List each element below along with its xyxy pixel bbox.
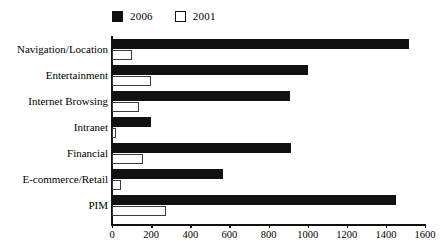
chart-legend: 2006 2001: [112, 8, 312, 24]
hollow-square-icon: [175, 11, 186, 22]
bar-2001: [112, 102, 139, 112]
category-axis-labels: Navigation/LocationEntertainmentInternet…: [0, 36, 108, 224]
legend-entry-2001: 2001: [175, 11, 216, 22]
x-tick-label: 1400: [375, 229, 396, 241]
category-label: Internet Browsing: [0, 95, 108, 107]
bar-group: [112, 90, 425, 116]
category-label: Financial: [0, 147, 108, 159]
x-tick-mark: [308, 224, 309, 228]
bar-group: [112, 116, 425, 142]
bar-2006: [112, 143, 291, 153]
bar-2006: [112, 117, 151, 127]
x-tick-mark: [347, 224, 348, 228]
bar-group: [112, 38, 425, 64]
x-tick-mark: [190, 224, 191, 228]
category-label: Intranet: [0, 121, 108, 133]
bar-2001: [112, 180, 121, 190]
bar-chart: 2006 2001 Navigation/LocationEntertainme…: [0, 0, 440, 245]
bar-group: [112, 64, 425, 90]
bar-2001: [112, 50, 132, 60]
category-label: E-commerce/Retail: [0, 173, 108, 185]
legend-entry-2006: 2006: [112, 11, 153, 22]
bar-2006: [112, 195, 396, 205]
x-tick-mark: [112, 224, 113, 228]
x-tick-label: 600: [222, 229, 238, 241]
x-tick-mark: [229, 224, 230, 228]
x-tick-label: 1600: [415, 229, 436, 241]
bar-2006: [112, 169, 223, 179]
category-label: Entertainment: [0, 69, 108, 81]
x-tick-label: 0: [109, 229, 114, 241]
x-tick-mark: [425, 224, 426, 228]
x-tick-label: 200: [143, 229, 159, 241]
category-label: PIM: [0, 199, 108, 211]
x-tick-mark: [151, 224, 152, 228]
bar-2001: [112, 206, 166, 216]
x-axis-ticks: 02004006008001000120014001600: [112, 224, 425, 244]
plot-area: [112, 36, 425, 224]
x-tick-label: 800: [261, 229, 277, 241]
bar-group: [112, 194, 425, 220]
bar-group: [112, 168, 425, 194]
bar-2006: [112, 39, 409, 49]
bar-2001: [112, 76, 151, 86]
bar-2006: [112, 65, 308, 75]
x-tick-mark: [386, 224, 387, 228]
bar-2001: [112, 154, 143, 164]
x-tick-mark: [269, 224, 270, 228]
x-tick-label: 1000: [297, 229, 318, 241]
x-tick-label: 1200: [336, 229, 357, 241]
filled-square-icon: [112, 11, 123, 22]
bar-2001: [112, 128, 116, 138]
bar-2006: [112, 91, 290, 101]
bar-group: [112, 142, 425, 168]
category-label: Navigation/Location: [0, 43, 108, 55]
x-tick-label: 400: [182, 229, 198, 241]
legend-label-2001: 2001: [193, 11, 216, 22]
legend-label-2006: 2006: [130, 11, 153, 22]
